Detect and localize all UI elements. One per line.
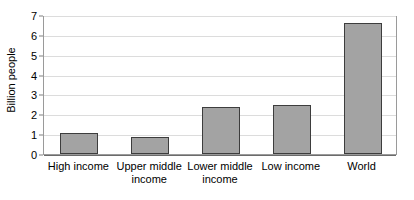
- bar-chart: Billion people 01234567 High incomeUpper…: [0, 0, 414, 200]
- y-tick-label: 0: [31, 150, 37, 161]
- x-axis-label: Upper middle income: [114, 160, 185, 186]
- x-axis-category-labels: High incomeUpper middle incomeLower midd…: [43, 160, 397, 200]
- y-tick-label: 1: [31, 130, 37, 141]
- y-tick-label: 3: [31, 90, 37, 101]
- y-tick-label: 4: [31, 70, 37, 81]
- y-tick-label: 5: [31, 50, 37, 61]
- bar[interactable]: [344, 23, 382, 154]
- bar-slot: [327, 17, 398, 154]
- axis-baseline: [44, 155, 396, 156]
- bar-slot: [115, 17, 186, 154]
- bar-slot: [44, 17, 115, 154]
- y-axis-title-text: Billion people: [5, 47, 17, 112]
- bar-slot: [186, 17, 257, 154]
- x-axis-label: High income: [43, 160, 114, 173]
- bar[interactable]: [131, 137, 169, 154]
- x-axis-label: World: [326, 160, 397, 173]
- y-axis-title: Billion people: [0, 0, 22, 160]
- y-axis-tick-labels: 01234567: [22, 16, 40, 155]
- bar[interactable]: [273, 105, 311, 154]
- y-tick-label: 7: [31, 11, 37, 22]
- bar[interactable]: [60, 133, 98, 154]
- y-tick-label: 2: [31, 110, 37, 121]
- x-axis-label: Lower middle income: [185, 160, 256, 186]
- bars-layer: [44, 17, 396, 154]
- bar-slot: [256, 17, 327, 154]
- bar[interactable]: [202, 107, 240, 154]
- x-axis-label: Low income: [255, 160, 326, 173]
- plot-area: [43, 16, 397, 155]
- y-tick-label: 6: [31, 30, 37, 41]
